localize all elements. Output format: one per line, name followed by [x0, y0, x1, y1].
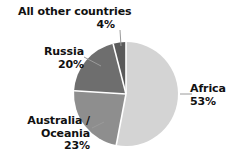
- slice-label-africa-name: Africa: [190, 82, 226, 95]
- slice-label-africa-value: 53%: [190, 96, 226, 109]
- slice-label-all-other-countries-name: All other countries: [18, 6, 132, 19]
- slice-label-australia-oceania-value: 23%: [4, 140, 90, 153]
- slice-label-australia-oceania-name-line1: Australia /: [27, 114, 90, 127]
- slice-label-australia-oceania: Australia / Oceania 23%: [4, 115, 90, 153]
- slice-label-russia-value: 20%: [22, 59, 84, 72]
- slice-label-russia: Russia 20%: [22, 46, 84, 71]
- slice-label-all-other-countries: All other countries 4%: [18, 6, 132, 31]
- slice-label-all-other-countries-value: 4%: [80, 19, 132, 32]
- slice-label-russia-name: Russia: [44, 45, 84, 58]
- pie-chart: All other countries 4% Russia 20% Austra…: [0, 0, 233, 167]
- slice-label-africa: Africa 53%: [190, 83, 226, 108]
